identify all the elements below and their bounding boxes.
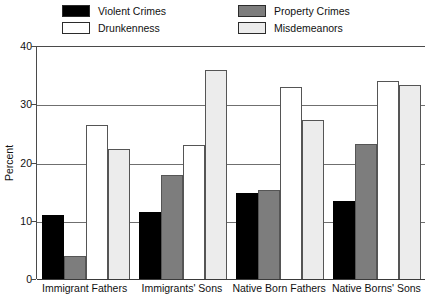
- y-axis-tick-mark: [31, 279, 36, 280]
- bar-group: [134, 47, 231, 279]
- bar: [302, 120, 324, 279]
- bar: [183, 145, 205, 279]
- legend-item-property-crimes: Property Crimes: [238, 5, 350, 17]
- bar: [205, 70, 227, 279]
- legend-label-violent-crimes: Violent Crimes: [98, 5, 166, 17]
- bar-group: [37, 47, 134, 279]
- x-axis-labels: Immigrant FathersImmigrants' SonsNative …: [36, 282, 425, 294]
- legend-item-misdemeanors: Misdemeanors: [238, 22, 343, 34]
- legend-swatch-violent-crimes: [62, 5, 90, 17]
- bar: [377, 81, 399, 279]
- legend-item-violent-crimes: Violent Crimes: [62, 5, 166, 17]
- x-axis-label: Immigrants' Sons: [133, 282, 230, 294]
- bar: [236, 193, 258, 279]
- bar-group: [231, 47, 328, 279]
- legend-label-misdemeanors: Misdemeanors: [274, 22, 343, 34]
- legend-swatch-property-crimes: [238, 5, 266, 17]
- bar: [161, 175, 183, 279]
- x-axis-label: Native Borns' Sons: [328, 282, 425, 294]
- x-axis-label: Immigrant Fathers: [36, 282, 133, 294]
- chart-legend: Violent Crimes Drunkenness Property Crim…: [0, 0, 427, 40]
- legend-swatch-drunkenness: [62, 22, 90, 34]
- bar: [86, 125, 108, 279]
- x-axis-label: Native Born Fathers: [231, 282, 328, 294]
- bar: [64, 256, 86, 279]
- bar-group: [328, 47, 425, 279]
- legend-item-drunkenness: Drunkenness: [62, 22, 160, 34]
- bar-chart: Violent Crimes Drunkenness Property Crim…: [0, 0, 427, 304]
- y-axis-title: Percent: [3, 118, 15, 208]
- bar: [399, 85, 421, 279]
- bar: [139, 212, 161, 279]
- legend-label-drunkenness: Drunkenness: [98, 22, 160, 34]
- bar: [333, 201, 355, 279]
- bar: [355, 144, 377, 279]
- y-axis: Percent 010203040: [0, 46, 36, 279]
- bar: [280, 87, 302, 279]
- plot-area: [36, 46, 425, 279]
- legend-label-property-crimes: Property Crimes: [274, 5, 350, 17]
- bar: [42, 215, 64, 279]
- bar: [108, 149, 130, 279]
- legend-swatch-misdemeanors: [238, 22, 266, 34]
- bar-groups: [37, 47, 425, 279]
- bar: [258, 190, 280, 279]
